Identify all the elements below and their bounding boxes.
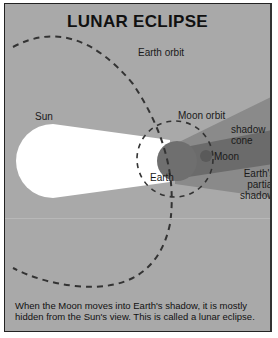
moon: [200, 150, 212, 162]
lunar-eclipse-panel: LUNAR ECLIPSE Earth orbit Sun Moon orbit…: [4, 3, 272, 332]
divider: [5, 218, 270, 219]
label-partial-shadow: Earth's partial shadow: [240, 168, 272, 201]
caption: When the Moon moves into Earth's shadow,…: [15, 300, 270, 322]
label-earth-orbit: Earth orbit: [138, 47, 184, 58]
label-moon-orbit: Moon orbit: [178, 110, 225, 121]
label-moon: Moon: [214, 151, 239, 162]
sunlight-beam: [16, 124, 170, 198]
label-sun: Sun: [35, 111, 53, 122]
label-shadow-cone: shadow cone: [231, 124, 265, 146]
label-earth: Earth: [150, 172, 174, 183]
